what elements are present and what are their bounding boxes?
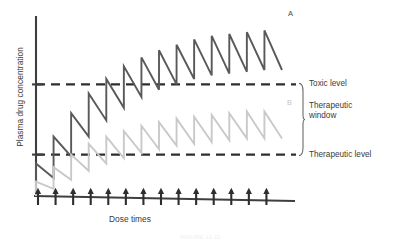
dose-arrow-9 — [193, 188, 199, 205]
curve-a-label: A — [288, 9, 293, 18]
curve-a — [36, 30, 282, 196]
therapeutic-window-line2: window — [309, 111, 336, 120]
dose-arrow-12 — [246, 188, 252, 205]
therapeutic-window-brace — [299, 83, 305, 155]
figure-caption: FIGURE 11-11 — [0, 233, 401, 240]
chart-canvas — [0, 0, 401, 244]
dose-arrow-7 — [158, 188, 164, 205]
figure-container: Plasma drug concentration Dose times A B… — [0, 0, 401, 244]
curve-b-label: B — [287, 98, 292, 107]
therapeutic-level-label: Therapeutic level — [309, 150, 371, 160]
toxic-level-label: Toxic level — [309, 79, 347, 89]
therapeutic-window-line1: Therapeutic — [309, 101, 352, 110]
dose-arrow-10 — [211, 188, 217, 205]
dose-arrow-13 — [263, 188, 269, 205]
therapeutic-window-label: Therapeutic window — [309, 101, 352, 121]
dose-arrow-11 — [228, 188, 234, 205]
dose-arrow-8 — [175, 188, 181, 205]
x-axis-label: Dose times — [0, 214, 260, 224]
dose-arrow-6 — [140, 188, 146, 205]
y-axis-label: Plasma drug concentration — [15, 17, 25, 177]
dose-arrow-5 — [123, 188, 129, 205]
